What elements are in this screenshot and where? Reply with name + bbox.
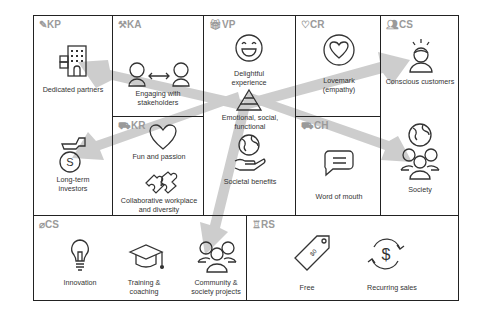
globe-hand-icon [232,133,266,175]
free-label: Free [287,284,327,293]
svg-text:S: S [66,156,73,168]
heart-circle-icon [322,33,356,67]
lightbulb-icon [69,238,91,272]
cr-header: ♡CR [301,19,324,30]
word-of-mouth-label: Word of mouth [304,193,374,202]
svg-text:$: $ [382,246,391,263]
graduation-cap-icon [128,242,166,274]
ch-header: ⛟CH [301,120,328,133]
group-icon [399,146,441,180]
vp-header: 🎁︎VP [209,19,235,30]
recurring-sales-label: Recurring sales [357,284,427,293]
kr-header: ⛟KR [118,120,145,133]
key-resources-section: ⛟KR Fun and passion Collaborative workpl… [112,116,204,216]
heart-icon [148,123,178,151]
lovemark-label: Lovemark (empathy) [310,77,368,94]
community-projects-label: Community & society projects [184,279,248,296]
gift-icon: 🎁︎ [209,19,222,30]
innovation-label: Innovation [50,279,110,288]
community-group-icon [196,239,238,275]
puzzle-icon [143,169,179,197]
dedicated-partners-label: Dedicated partners [34,86,112,95]
building-icon [56,44,92,80]
revenue-streams-section: ♖RS $0 Free $ Recurring sales [246,215,459,301]
price-tag-text: $0 [309,248,318,257]
truck-icon: ⛟ [118,120,131,131]
enlightened-person-icon [406,38,436,74]
customer-relationships-section: ♡CR Lovemark (empathy) [295,15,381,117]
globe-icon [407,122,433,148]
speech-bubble-icon [323,149,355,177]
price-tag-icon: $0 [291,233,333,275]
cost-header: ⌀CS [39,219,59,230]
long-term-investors-label: Long-term investors [42,176,104,193]
training-coaching-label: Training & coaching [120,279,168,296]
customer-segments-section: 👥︎CS Conscious customers [380,15,459,216]
heart-outline-icon: ♡ [301,19,310,30]
money-bag-icon: S [56,134,90,174]
kp-header: ✎KP [39,19,61,30]
smiley-face-icon [234,33,264,63]
fun-passion-label: Fun and passion [123,153,195,162]
society-label: Society [381,186,459,195]
cost-structure-section: ⌀CS Innovation Training & coaching [33,215,247,301]
key-activities-section: ⚒KA Engaging with stakeholders [112,15,204,117]
conscious-customers-label: Conscious customers [381,78,459,87]
recurring-dollar-icon: $ [367,235,405,273]
key-partners-section: ✎KP Dedicated partners [33,15,113,216]
truck-icon: ⛟ [301,120,314,131]
ka-header: ⚒KA [118,19,141,30]
business-model-canvas: ✎KP Dedicated partners [0,0,485,319]
tools-icon: ⚒ [118,19,127,30]
pyramid-icon [236,89,262,111]
channels-section: ⛟CH Word of mouth [295,116,381,216]
engaging-stakeholders-label: Engaging with stakeholders [123,90,193,107]
cs-header: 👥︎CS [386,19,413,30]
delightful-experience-label: Delightful experience [219,70,279,87]
rs-header: ♖RS [252,219,275,230]
collaborative-label: Collaborative workplace and diversity [115,197,203,214]
value-propositions-section: 🎁︎VP Delightful experience Emotional, so… [203,15,296,216]
stakeholders-exchange-icon [127,60,191,88]
money-bag-icon: ♖ [252,219,261,230]
societal-benefits-label: Societal benefits [209,178,291,187]
people-icon: 👥︎ [386,19,399,30]
pencil-icon: ✎ [39,19,47,30]
emotional-social-functional-label: Emotional, social, functional [212,114,288,131]
